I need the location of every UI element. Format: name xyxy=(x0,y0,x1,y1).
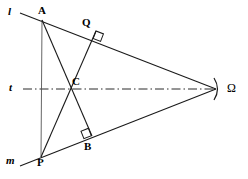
point-label-omega: Ω xyxy=(227,82,236,94)
line-label-t: t xyxy=(9,82,12,93)
geometry-figure: l m t A Q C B P Ω xyxy=(0,0,248,179)
line-m xyxy=(20,89,216,166)
point-label-b: B xyxy=(84,141,91,152)
line-label-l: l xyxy=(8,6,11,17)
segment-AP xyxy=(41,20,42,157)
point-label-a: A xyxy=(38,5,46,16)
point-label-p: P xyxy=(37,157,44,168)
right-angle-marker-q xyxy=(93,31,103,41)
point-label-q: Q xyxy=(82,17,91,28)
line-l xyxy=(20,13,216,89)
figure-canvas xyxy=(0,0,248,179)
segment-AB xyxy=(42,20,92,136)
point-label-c: C xyxy=(72,76,80,87)
segment-PQ xyxy=(41,31,96,157)
line-label-m: m xyxy=(6,155,15,166)
